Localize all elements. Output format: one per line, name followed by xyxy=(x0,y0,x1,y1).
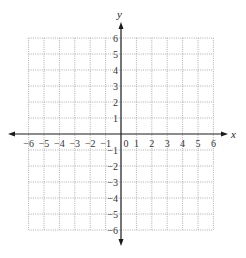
y-axis-up-arrow-icon xyxy=(119,22,124,29)
y-tick-label: 2 xyxy=(113,97,118,108)
y-axis-down-arrow-icon xyxy=(119,239,124,246)
coordinate-plane: x y −6−5−4−3−2−10123456123456−1−2−3−4−5−… xyxy=(0,0,246,258)
y-tick-label: −6 xyxy=(107,225,118,236)
axes xyxy=(8,22,228,246)
y-axis-label: y xyxy=(116,8,122,20)
y-tick-label: 5 xyxy=(113,49,118,60)
x-tick-label: 1 xyxy=(134,138,139,149)
x-axis-left-arrow-icon xyxy=(8,132,15,137)
y-tick-label: −4 xyxy=(107,193,118,204)
x-tick-label: 4 xyxy=(180,138,185,149)
x-tick-label: 6 xyxy=(211,138,216,149)
x-axis-right-arrow-icon xyxy=(221,132,228,137)
x-tick-label: 5 xyxy=(196,138,201,149)
y-tick-label: 6 xyxy=(113,33,118,44)
y-tick-label: −1 xyxy=(107,145,118,156)
x-tick-label: −4 xyxy=(54,138,65,149)
x-tick-label: 2 xyxy=(149,138,154,149)
x-tick-label: 3 xyxy=(165,138,170,149)
y-tick-label: −5 xyxy=(107,209,118,220)
x-axis-label: x xyxy=(230,128,236,140)
x-tick-label: −6 xyxy=(23,138,34,149)
y-tick-label: 1 xyxy=(113,113,118,124)
y-tick-label: 3 xyxy=(113,81,118,92)
x-tick-label: 0 xyxy=(124,138,129,149)
y-tick-label: −2 xyxy=(107,161,118,172)
x-tick-label: −2 xyxy=(85,138,96,149)
y-tick-label: −3 xyxy=(107,177,118,188)
y-tick-label: 4 xyxy=(113,65,118,76)
x-tick-label: −5 xyxy=(39,138,50,149)
x-tick-label: −3 xyxy=(69,138,80,149)
